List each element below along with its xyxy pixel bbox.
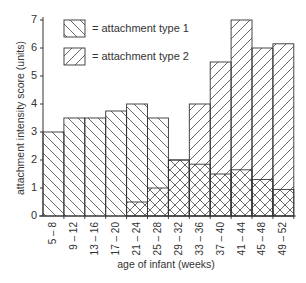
legend-swatches [64,20,85,65]
bar-type-2 [273,44,294,216]
y-tick-label: 3 [25,125,37,137]
x-tick-label: 29 – 32 [173,222,184,262]
x-tick-label: 41 – 44 [236,222,247,262]
x-tick-label: 25 – 28 [152,222,163,262]
x-tick-label: 45 – 48 [256,222,267,262]
bar-type-1 [106,111,127,216]
y-tick-label: 1 [25,181,37,193]
y-axis-label: attachment intensity score (units) [14,41,26,195]
bar-type-2 [252,48,273,216]
bar-type-1 [64,118,85,216]
y-tick-label: 5 [25,69,37,81]
bar-type-2 [148,188,169,216]
y-tick-label: 2 [25,153,37,165]
x-tick-label: 17 – 20 [110,222,121,262]
legend-label-type-1: = attachment type 1 [92,22,189,34]
x-tick-label: 33 – 36 [194,222,205,262]
x-tick-label: 5 – 8 [47,222,58,262]
y-tick-label: 4 [25,97,37,109]
bar-type-2 [127,202,148,216]
x-tick-label: 9 – 12 [68,222,79,262]
x-axis-label: age of infant (weeks) [117,258,214,270]
y-tick-label: 6 [25,41,37,53]
x-tick-label: 13 – 16 [89,222,100,262]
bar-type-2 [168,160,189,216]
y-tick-label: 7 [25,13,37,25]
bar-type-1 [85,118,106,216]
bar-type-1 [43,132,64,216]
bar-type-2 [210,62,231,216]
legend-swatch-type-2 [64,48,85,65]
x-tick-label: 49 – 52 [277,222,288,262]
legend-swatch-type-1 [64,20,85,37]
bar-type-2 [231,20,252,216]
legend-label-type-2: = attachment type 2 [92,50,189,62]
x-tick-label: 37 – 40 [215,222,226,262]
bar-type-2 [189,104,210,216]
y-tick-label: 0 [25,209,37,221]
bar-type-1 [127,104,148,216]
x-tick-label: 21 – 24 [131,222,142,262]
